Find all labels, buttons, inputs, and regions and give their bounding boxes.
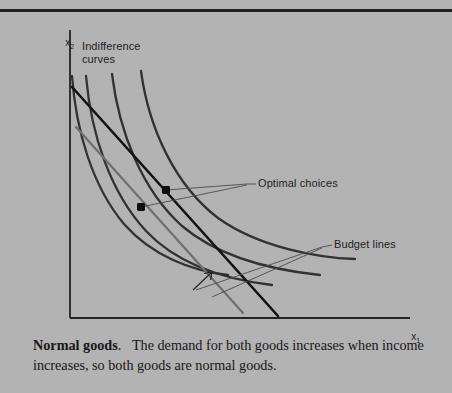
- optimal-choices-label: Optimal choices: [258, 177, 338, 190]
- budget-shift-arrow-icon: [193, 272, 212, 290]
- budget-lines-leaders: [196, 245, 332, 297]
- indifference-curve-2: [86, 76, 272, 285]
- optimal-choice-outer-dot: [162, 186, 170, 194]
- optimal-choices-leaders: [141, 184, 256, 207]
- indifference-curve-4: [141, 71, 355, 259]
- indifference-curves-label: Indifference curves: [82, 40, 140, 66]
- leader-budget-stub: [322, 245, 332, 247]
- indifference-curve-3: [112, 74, 320, 275]
- figure-caption: Normal goods. The demand for both goods …: [33, 336, 425, 375]
- budget-line-old: [76, 127, 243, 313]
- leader-optimal-outer: [166, 184, 247, 190]
- figure-page: x2 x1 Indifference curves Optimal choice…: [0, 0, 452, 393]
- y-axis-label: x2: [54, 26, 74, 61]
- caption-lead: Normal goods: [33, 337, 118, 353]
- budget-lines-label: Budget lines: [334, 238, 396, 251]
- optimal-choice-inner-dot: [137, 203, 145, 211]
- caption-lead-suffix: .: [118, 337, 122, 353]
